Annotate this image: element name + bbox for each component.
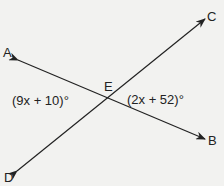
point-b-label: B (208, 133, 217, 148)
angle-aed-expression: (9x + 10)° (12, 93, 69, 108)
angle-ceb-expression: (2x + 52)° (127, 92, 184, 107)
point-a-label: A (3, 45, 12, 60)
diagram-canvas: A C B D E (9x + 10)° (2x + 52)° (0, 0, 224, 186)
point-e-label: E (104, 79, 113, 94)
point-d-label: D (4, 170, 13, 185)
point-c-label: C (207, 9, 216, 24)
